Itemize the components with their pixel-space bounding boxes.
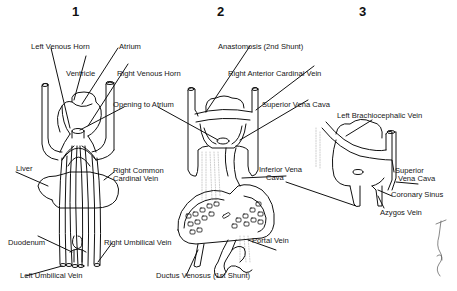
label-opening-to-atrium: Opening to Atrium xyxy=(113,101,174,109)
label-atrium: Atrium xyxy=(119,43,141,51)
label-left-venous-horn: Left Venous Horn xyxy=(31,43,90,51)
venous-development-diagram: 1 2 3 Left Venous Horn Atrium Ventricle … xyxy=(0,0,457,291)
label-left-umbilical-vein: Left Umbilical Vein xyxy=(20,272,82,280)
label-coronary-sinus: Coronary Sinus xyxy=(391,191,443,199)
panel-1-number: 1 xyxy=(72,4,79,19)
panel-3-number: 3 xyxy=(359,4,366,19)
label-azygos-vein: Azygos Vein xyxy=(380,209,422,217)
label-ductus-venosus: Ductus Venosus (1st Shunt) xyxy=(156,272,250,280)
panel-2-drawing xyxy=(158,46,314,277)
panel-2-number: 2 xyxy=(217,4,224,19)
label-right-umbilical-vein: Right Umbilical Vein xyxy=(104,239,172,247)
label-superior-vena-cava-p3-line2: Vena Cava xyxy=(398,175,435,183)
label-liver: Liver xyxy=(16,165,32,173)
label-ventricle: Ventricle xyxy=(66,70,95,78)
label-inferior-vena-cava-line2: Cava xyxy=(266,174,284,182)
label-duodenum: Duodenum xyxy=(8,239,45,247)
label-right-venous-horn: Right Venous Horn xyxy=(117,70,181,78)
label-superior-vena-cava: Superior Vena Cava xyxy=(262,101,330,109)
label-portal-vein: Portal Vein xyxy=(252,237,289,245)
label-right-common-cardinal-vein-line2: Cardinal Vein xyxy=(113,175,158,183)
label-left-brachiocephalic-vein: Left Brachiocephalic Vein xyxy=(337,112,422,120)
artist-signature xyxy=(436,220,446,276)
label-anastomosis: Anastomosis (2nd Shunt) xyxy=(218,43,303,51)
label-right-anterior-cardinal-vein: Right Anterior Cardinal Vein xyxy=(228,70,321,78)
